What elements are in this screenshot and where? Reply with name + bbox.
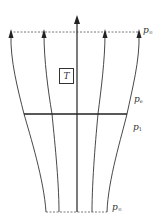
thrust-box: T — [59, 68, 74, 84]
streamline-inner-right — [92, 34, 105, 212]
label-bottom-pressure: p∞ — [112, 203, 122, 212]
label-exit-pressure: pe — [134, 95, 143, 104]
label-plane-pressure-subscript: 1 — [139, 126, 142, 132]
label-top-pressure-subscript: ∞ — [149, 29, 153, 35]
thrust-label: T — [63, 71, 69, 81]
label-exit-pressure-subscript: e — [140, 98, 143, 104]
label-plane-pressure: p1 — [133, 123, 142, 132]
arrowhead-inner-left-icon — [42, 29, 47, 38]
arrowhead-outer-left-icon — [9, 29, 14, 38]
center-arrowhead-icon — [74, 15, 80, 24]
label-bottom-pressure-subscript: ∞ — [118, 206, 122, 212]
label-top-pressure: p∞ — [143, 26, 153, 35]
arrowhead-inner-right-icon — [103, 29, 108, 38]
streamline-inner-left — [44, 34, 59, 212]
diagram-canvas — [0, 0, 160, 223]
streamline-outer-left — [11, 34, 46, 212]
arrowhead-outer-right-icon — [137, 29, 142, 38]
